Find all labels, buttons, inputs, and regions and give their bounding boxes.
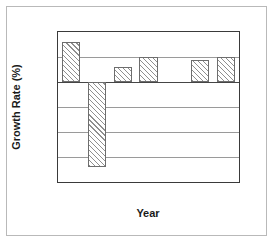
bar-1992: [114, 67, 132, 82]
bar-1995: [191, 60, 209, 83]
y-tick-minor: [57, 88, 58, 89]
y-tick-minor: [57, 70, 58, 71]
x-tick-minor: [213, 182, 214, 183]
y-tick-major: [57, 182, 58, 183]
y-tick-minor: [57, 176, 58, 177]
x-tick-major: [149, 182, 150, 183]
y-tick-major: [57, 57, 58, 58]
x-tick-major: [174, 182, 175, 183]
y-tick-minor: [57, 151, 58, 152]
y-tick-minor: [57, 45, 58, 46]
y-tick-major: [57, 107, 58, 108]
y-axis-title: Growth Rate (%): [10, 64, 22, 150]
x-tick-minor: [110, 182, 111, 183]
x-tick-minor: [187, 182, 188, 183]
y-tick-minor: [57, 170, 58, 171]
bar-1990: [62, 42, 80, 82]
y-tick-minor: [57, 113, 58, 114]
chart-figure: Growth Rate (%) Year 420-2-4-6-8 1990199…: [0, 0, 274, 243]
x-tick-major: [123, 182, 124, 183]
bars-group: [58, 32, 239, 182]
y-tick-minor: [57, 63, 58, 64]
y-tick-minor: [57, 163, 58, 164]
bar-1993: [139, 57, 157, 82]
y-tick-major: [57, 32, 58, 33]
y-tick-minor: [57, 126, 58, 127]
y-tick-minor: [57, 138, 58, 139]
bar-1996: [217, 57, 235, 82]
y-tick-minor: [57, 101, 58, 102]
x-tick-minor: [136, 182, 137, 183]
y-tick-minor: [57, 95, 58, 96]
bar-1991: [88, 82, 106, 167]
y-tick-major: [57, 157, 58, 158]
y-tick-minor: [57, 51, 58, 52]
x-tick-minor: [84, 182, 85, 183]
x-tick-minor: [161, 182, 162, 183]
x-axis-title: Year: [136, 207, 159, 219]
y-tick-minor: [57, 120, 58, 121]
plot-area: 420-2-4-6-8 1990199119921993199419951996: [57, 31, 240, 183]
y-tick-minor: [57, 38, 58, 39]
x-tick-major: [97, 182, 98, 183]
y-tick-minor: [57, 145, 58, 146]
y-tick-minor: [57, 76, 58, 77]
x-tick-major: [71, 182, 72, 183]
x-tick-major: [226, 182, 227, 183]
x-tick-major: [200, 182, 201, 183]
y-tick-major: [57, 82, 58, 83]
y-tick-major: [57, 132, 58, 133]
